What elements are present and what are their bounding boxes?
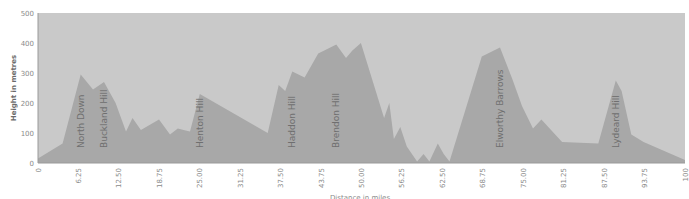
x-tick-label: 56.25: [398, 168, 406, 188]
x-tick-labels: 06.2512.5018.7525.0031.2537.5043.7550.00…: [35, 168, 689, 188]
x-tick-label: 68.75: [479, 168, 487, 188]
x-tick-label: 0: [35, 168, 43, 172]
y-axis-label: Height in metres: [10, 55, 18, 121]
peak-label: Elworthy Barrows: [495, 69, 505, 148]
y-tick-label: 400: [21, 40, 34, 48]
x-tick-label: 50.00: [358, 168, 366, 188]
x-tick-label: 93.75: [641, 168, 649, 188]
x-axis-label: Distance in miles: [330, 194, 390, 199]
y-tick-labels: 0100200300400500: [21, 10, 34, 168]
y-tick-label: 100: [21, 130, 34, 138]
y-tick-label: 300: [21, 70, 34, 78]
peak-label: Brendon Hill: [331, 93, 341, 148]
x-tick-label: 81.25: [560, 168, 568, 188]
x-tick-label: 25.00: [196, 168, 204, 188]
peak-label: Lydeard Hill: [611, 95, 621, 148]
x-tick-label: 18.75: [156, 168, 164, 188]
x-tick-label: 62.50: [439, 168, 447, 188]
x-tick-label: 12.50: [115, 168, 123, 188]
peak-label: North Down: [76, 94, 86, 148]
y-tick-label: 0: [30, 160, 34, 168]
x-tick-label: 6.25: [75, 168, 83, 184]
y-tick-label: 500: [21, 10, 34, 18]
peak-label: Haddon Hill: [287, 96, 297, 148]
x-tick-label: 37.50: [277, 168, 285, 188]
peak-label: Buckland Hill: [99, 89, 109, 148]
x-tick-label: 87.50: [601, 168, 609, 188]
elevation-chart: 0100200300400500 06.2512.5018.7525.0031.…: [0, 0, 689, 199]
peak-label: Henton Hill: [195, 98, 205, 148]
x-tick-label: 100: [682, 168, 689, 181]
y-tick-label: 200: [21, 100, 34, 108]
x-tick-label: 75.00: [520, 168, 528, 188]
x-tick-label: 43.75: [318, 168, 326, 188]
x-tick-label: 31.25: [237, 168, 245, 188]
